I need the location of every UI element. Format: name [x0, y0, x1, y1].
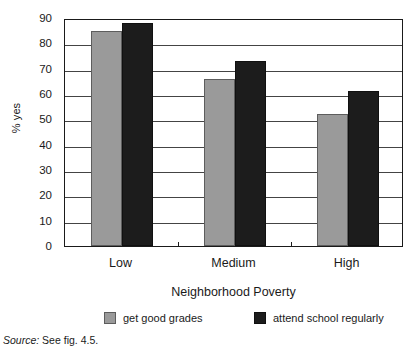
x-axis-title: Neighborhood Poverty — [64, 285, 403, 299]
legend-swatch-0 — [104, 312, 116, 324]
source-text: See fig. 4.5. — [42, 334, 98, 346]
y-tick-label: 90 — [39, 13, 52, 25]
source-note: Source: See fig. 4.5. — [3, 334, 98, 346]
x-label-medium: Medium — [211, 256, 255, 270]
y-tick-label: 60 — [39, 89, 52, 101]
bar-low-series-1 — [122, 23, 153, 246]
y-axis-tick-labels: 9080706050403020100 — [20, 19, 58, 247]
x-label-high: High — [334, 256, 360, 270]
y-tick-label: 30 — [39, 165, 52, 177]
bar-medium-series-1 — [235, 61, 266, 246]
bar-chart-figure: % yes 9080706050403020100 LowMediumHigh … — [0, 0, 417, 350]
y-tick-label: 40 — [39, 140, 52, 152]
legend-item-0: get good grades — [104, 312, 203, 324]
chart-legend: get good gradesattend school regularly — [64, 312, 403, 328]
legend-swatch-1 — [254, 312, 266, 324]
bar-low-series-0 — [91, 31, 122, 246]
x-label-low: Low — [109, 256, 132, 270]
x-axis-tick — [291, 242, 292, 247]
bar-high-series-1 — [348, 91, 379, 246]
legend-label-1: attend school regularly — [273, 312, 384, 324]
x-axis-tick — [178, 242, 179, 247]
y-tick-label: 0 — [46, 241, 52, 253]
bar-high-series-0 — [317, 114, 348, 246]
x-axis-category-labels: LowMediumHigh — [64, 256, 403, 274]
legend-item-1: attend school regularly — [254, 312, 384, 324]
bar-medium-series-0 — [204, 79, 235, 246]
y-tick-label: 20 — [39, 191, 52, 203]
y-tick-label: 10 — [39, 216, 52, 228]
y-tick-label: 80 — [39, 39, 52, 51]
legend-label-0: get good grades — [123, 312, 203, 324]
plot-area — [64, 19, 403, 247]
y-tick-label: 50 — [39, 115, 52, 127]
source-label: Source: — [3, 334, 39, 346]
bar-groups — [65, 20, 402, 246]
y-tick-label: 70 — [39, 64, 52, 76]
